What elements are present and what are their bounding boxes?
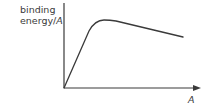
x-axis-arrow-icon [193,85,201,91]
binding-energy-curve [64,20,183,88]
x-axis-label: A [188,94,195,105]
binding-energy-graph [0,0,212,109]
